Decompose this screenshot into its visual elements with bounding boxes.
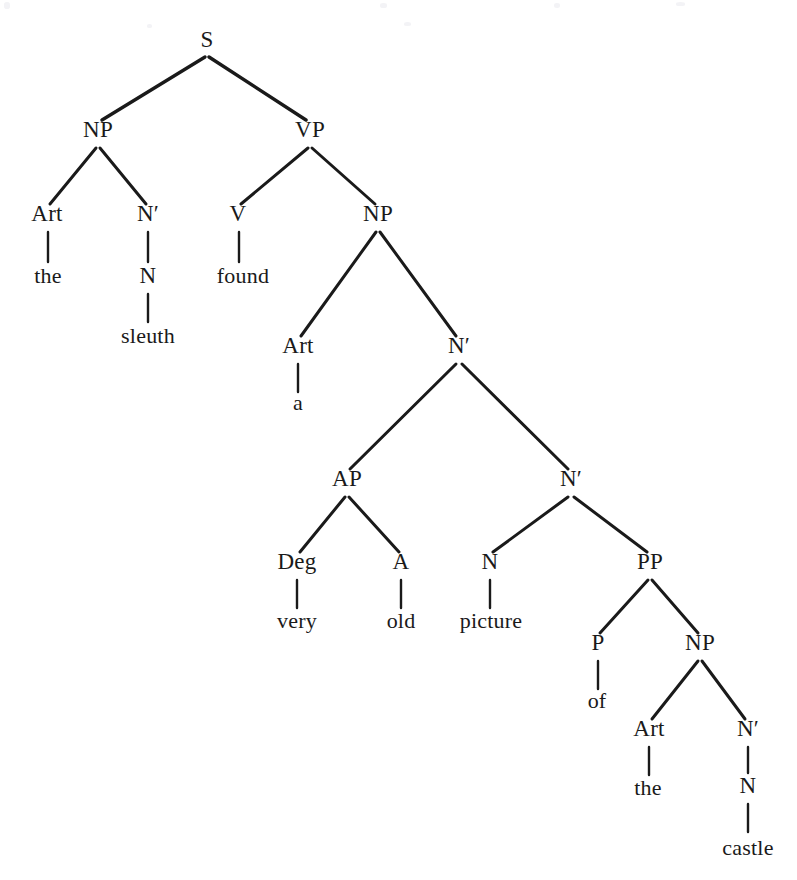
tree-canvas: SNPVPArtN′VNPtheNfoundsleuthArtN′aAPN′De… xyxy=(0,0,797,880)
tree-category-node: Art xyxy=(282,333,314,358)
tree-category-node: N′ xyxy=(560,466,582,491)
tree-terminal-word: old xyxy=(387,608,416,633)
tree-branch-line xyxy=(100,148,146,204)
tree-terminal-word: the xyxy=(34,263,61,288)
syntax-tree-diagram: SNPVPArtN′VNPtheNfoundsleuthArtN′aAPN′De… xyxy=(0,0,797,880)
tree-terminal-word: the xyxy=(634,775,661,800)
tree-branch-line xyxy=(574,497,647,552)
tree-branch-line xyxy=(380,232,456,336)
tree-category-node: V xyxy=(230,201,247,226)
tree-category-node: A xyxy=(393,549,410,574)
tree-branch-line xyxy=(301,232,376,336)
tree-category-node: VP xyxy=(295,117,325,142)
tree-branch-line xyxy=(102,57,205,120)
tree-category-node: NP xyxy=(83,117,113,142)
tree-branch-line xyxy=(312,148,375,204)
tree-category-node: N xyxy=(740,773,757,798)
tree-category-node: N xyxy=(482,549,499,574)
tree-terminal-word: of xyxy=(588,688,607,713)
tree-terminal-word: found xyxy=(217,263,269,288)
tree-branch-line xyxy=(209,57,306,120)
tree-category-node: S xyxy=(200,27,213,52)
tree-branch-line xyxy=(241,148,308,204)
tree-branch-line xyxy=(652,580,698,633)
tree-category-node: PP xyxy=(637,549,663,574)
tree-node-layer: SNPVPArtN′VNPtheNfoundsleuthArtN′aAPN′De… xyxy=(31,27,773,860)
tree-branch-line xyxy=(349,497,399,552)
tree-category-node: P xyxy=(591,630,604,655)
tree-terminal-word: sleuth xyxy=(121,323,175,348)
tree-branch-line xyxy=(350,364,456,469)
tree-category-node: AP xyxy=(332,466,362,491)
tree-category-node: N xyxy=(140,263,157,288)
tree-category-node: N′ xyxy=(448,333,470,358)
tree-category-node: N′ xyxy=(737,716,759,741)
tree-branch-line xyxy=(600,580,648,633)
tree-branch-line xyxy=(462,364,568,469)
tree-category-node: NP xyxy=(363,201,393,226)
tree-category-node: Art xyxy=(31,201,63,226)
tree-category-node: Deg xyxy=(277,549,316,574)
tree-terminal-word: picture xyxy=(460,608,522,633)
tree-branch-line xyxy=(50,148,96,204)
tree-branch-line xyxy=(652,661,698,719)
tree-terminal-word: very xyxy=(277,608,317,633)
tree-branch-line xyxy=(702,661,745,719)
tree-category-node: N′ xyxy=(137,201,159,226)
tree-category-node: NP xyxy=(685,630,715,655)
tree-terminal-word: a xyxy=(293,390,303,415)
tree-category-node: Art xyxy=(633,716,665,741)
tree-branch-line xyxy=(300,497,345,552)
tree-branch-line xyxy=(493,497,568,552)
tree-terminal-word: castle xyxy=(722,835,773,860)
